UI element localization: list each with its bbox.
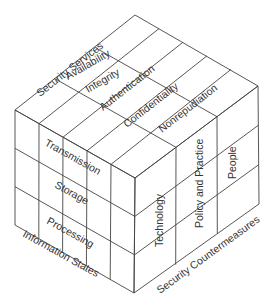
security-cube-diagram: Security Services Availability Integrity… <box>0 0 272 305</box>
countermeasure-policy-and-practice: Policy and Practice <box>193 139 205 228</box>
state-transmission: Transmission <box>43 136 103 177</box>
countermeasure-technology: Technology <box>153 193 165 247</box>
cube-svg: Security Services Availability Integrity… <box>0 0 272 305</box>
left-axis-labels: Transmission Storage Processing Informat… <box>21 136 103 279</box>
axis-label-security-countermeasures: Security Countermeasures <box>154 213 262 296</box>
top-axis-labels: Security Services Availability Integrity… <box>34 39 220 134</box>
countermeasure-people: People <box>226 146 238 179</box>
state-storage: Storage <box>53 178 91 206</box>
right-axis-labels: Technology Policy and Practice People Se… <box>153 139 262 296</box>
